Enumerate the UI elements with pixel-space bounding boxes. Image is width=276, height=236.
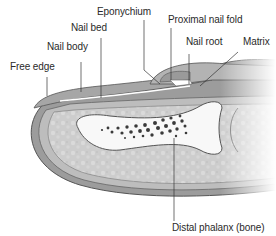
label-nail-body: Nail body bbox=[47, 41, 88, 52]
label-matrix: Matrix bbox=[243, 36, 270, 47]
fingernail-diagram bbox=[0, 0, 276, 236]
label-nail-root: Nail root bbox=[186, 36, 222, 47]
label-free-edge: Free edge bbox=[10, 61, 55, 72]
label-proximal-nail-fold: Proximal nail fold bbox=[168, 14, 242, 25]
label-distal-phalanx: Distal phalanx (bone) bbox=[172, 222, 264, 233]
label-eponychium: Eponychium bbox=[97, 6, 151, 17]
label-nail-bed: Nail bed bbox=[71, 22, 107, 33]
